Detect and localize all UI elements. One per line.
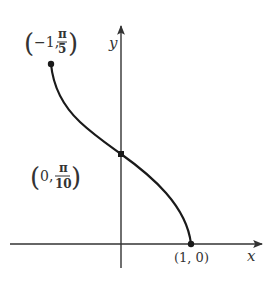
svg-text:5: 5	[58, 42, 66, 56]
y-axis-label: y	[108, 34, 118, 52]
svg-text:π: π	[59, 161, 68, 175]
point-end	[188, 241, 194, 247]
svg-text:π: π	[58, 27, 67, 41]
svg-text:(: (	[24, 28, 34, 58]
x-axis-label: x	[247, 247, 256, 265]
label-end-point: (1, 0)	[174, 250, 209, 265]
svg-text:(: (	[30, 162, 40, 192]
svg-text:): )	[71, 162, 81, 192]
svg-text:): )	[68, 28, 78, 58]
graph-canvas: y x ( −1, π 5 ) ( 0, π 10 ) (1, 0)	[0, 0, 280, 289]
label-start-point: ( −1, π 5 )	[24, 27, 78, 58]
label-middle-point: ( 0, π 10 )	[30, 161, 81, 192]
svg-text:10: 10	[55, 177, 72, 191]
svg-text:0,: 0,	[40, 168, 53, 184]
svg-text:−1,: −1,	[34, 34, 59, 50]
graph-figure: y x ( −1, π 5 ) ( 0, π 10 ) (1, 0)	[0, 0, 280, 289]
point-start	[48, 61, 54, 67]
point-middle	[118, 151, 124, 157]
